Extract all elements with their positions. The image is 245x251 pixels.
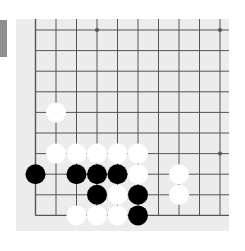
black-stone[interactable]	[26, 164, 46, 184]
board-grid	[16, 19, 229, 231]
white-stone[interactable]	[87, 144, 107, 164]
star-point	[218, 28, 222, 32]
side-panel-tab[interactable]	[0, 20, 7, 57]
go-board[interactable]	[16, 19, 229, 231]
white-stone[interactable]	[169, 164, 189, 184]
white-stone[interactable]	[46, 144, 66, 164]
white-stone[interactable]	[128, 144, 148, 164]
star-point	[218, 152, 222, 156]
black-stone[interactable]	[67, 164, 87, 184]
white-stone[interactable]	[67, 144, 87, 164]
white-stone[interactable]	[67, 205, 87, 225]
white-stone[interactable]	[169, 185, 189, 205]
white-stone[interactable]	[108, 185, 128, 205]
white-stone[interactable]	[46, 102, 66, 122]
black-stone[interactable]	[128, 185, 148, 205]
black-stone[interactable]	[108, 164, 128, 184]
white-stone[interactable]	[128, 164, 148, 184]
black-stone[interactable]	[128, 205, 148, 225]
star-point	[95, 28, 99, 32]
black-stone[interactable]	[87, 185, 107, 205]
white-stone[interactable]	[87, 205, 107, 225]
stones	[26, 102, 190, 225]
black-stone[interactable]	[87, 164, 107, 184]
white-stone[interactable]	[108, 205, 128, 225]
white-stone[interactable]	[108, 144, 128, 164]
